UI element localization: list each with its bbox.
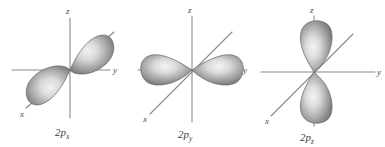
orbital-caption: 2px	[55, 126, 70, 141]
axis-label-y: y	[112, 65, 117, 75]
axis-label-z: z	[65, 6, 70, 16]
axis-label-x: x	[264, 116, 269, 126]
orbital-lobe-negative	[141, 55, 192, 85]
orbital-caption-sub: y	[188, 134, 193, 143]
orbital-caption-sub: x	[65, 132, 70, 141]
orbital-caption: 2py	[178, 128, 193, 143]
orbital-caption: 2pz	[300, 131, 314, 146]
axis-label-z: z	[187, 5, 192, 15]
orbital-panel-2pz: z y x 2pz	[257, 0, 385, 147]
axis-label-z: z	[309, 5, 314, 15]
axis-label-x: x	[19, 109, 24, 119]
orbital-figure: z y x 2px	[0, 0, 385, 147]
orbital-lobe-positive	[70, 35, 114, 74]
orbital-lobe-positive	[192, 55, 243, 85]
axis-label-x: x	[142, 114, 147, 124]
orbital-panel-2py: z y x 2py	[128, 0, 256, 147]
axis-label-y: y	[376, 67, 381, 77]
orbital-caption-main: 2p	[300, 131, 312, 143]
axis-label-y: y	[242, 65, 247, 75]
orbital-lobe-positive	[300, 21, 332, 72]
orbital-caption-main: 2p	[178, 128, 190, 140]
orbital-lobe-negative	[300, 72, 332, 123]
orbital-lobe-negative	[26, 66, 70, 105]
orbital-caption-sub: z	[310, 137, 314, 146]
orbital-panel-2px: z y x 2px	[0, 0, 128, 147]
orbital-caption-main: 2p	[55, 126, 67, 138]
